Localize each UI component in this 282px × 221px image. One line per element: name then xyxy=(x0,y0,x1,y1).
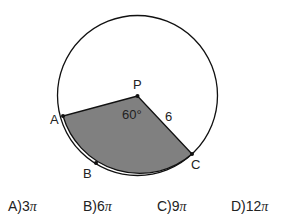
point-b xyxy=(94,161,98,165)
angle-label: 60° xyxy=(122,107,142,122)
label-c: C xyxy=(191,157,200,172)
point-p xyxy=(136,94,140,98)
label-a: A xyxy=(50,112,59,127)
choice-letter: A) xyxy=(8,198,22,214)
point-a xyxy=(61,114,65,118)
choice-value: 9 xyxy=(172,198,180,214)
choice-c[interactable]: C)9π xyxy=(157,198,187,215)
pi-symbol: π xyxy=(105,199,112,214)
choice-b[interactable]: B)6π xyxy=(83,198,112,215)
choice-value: 6 xyxy=(97,198,105,214)
choice-d[interactable]: D)12π xyxy=(231,198,268,215)
choice-letter: B) xyxy=(83,198,97,214)
pi-symbol: π xyxy=(261,199,268,214)
choice-value: 3 xyxy=(22,198,30,214)
circle-diagram: P A B C 60° 6 xyxy=(0,0,282,221)
answer-choices: A)3π B)6π C)9π D)12π xyxy=(0,198,282,218)
pi-symbol: π xyxy=(180,199,187,214)
pi-symbol: π xyxy=(30,199,37,214)
choice-value: 12 xyxy=(246,198,262,214)
label-p: P xyxy=(133,77,142,92)
label-b: B xyxy=(83,166,92,181)
choice-a[interactable]: A)3π xyxy=(8,198,37,215)
radius-label: 6 xyxy=(165,109,172,124)
point-c xyxy=(190,152,194,156)
choice-letter: C) xyxy=(157,198,172,214)
choice-letter: D) xyxy=(231,198,246,214)
